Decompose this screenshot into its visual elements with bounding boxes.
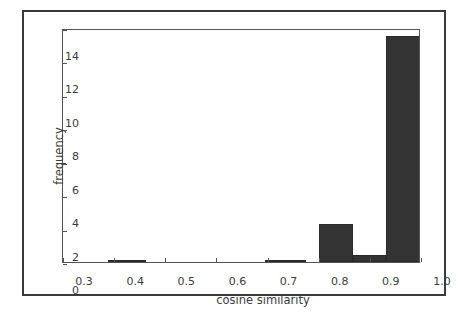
x-tick-label: 0.6 [229,275,247,288]
x-tick-mark [268,258,269,262]
x-tick-label: 0.4 [126,275,144,288]
x-tick-label: 0.5 [178,275,196,288]
x-tick-mark [114,258,115,262]
x-tick-mark [319,258,320,262]
plot-axes-area [62,29,420,263]
x-axis-tick-labels: 0.30.40.50.60.70.80.91.0 [84,275,442,291]
histogram-bars [63,30,419,262]
x-tick-mark [216,258,217,262]
y-tick-label: 6 [72,183,79,196]
y-tick-label: 2 [72,250,79,263]
x-tick-label: 0.9 [382,275,400,288]
histogram-bar [319,224,354,262]
histogram-bar [386,36,419,262]
y-tick-mark [63,30,67,31]
x-tick-label: 0.7 [280,275,298,288]
x-tick-mark [370,258,371,262]
x-axis-title: cosine similarity [84,293,442,307]
y-tick-label: 4 [72,217,79,230]
x-tick-label: 0.8 [331,275,349,288]
figure-frame: 02468101214 0.30.40.50.60.70.80.91.0 cos… [22,10,446,296]
y-tick-label: 12 [65,83,79,96]
y-tick-label: 8 [72,150,79,163]
y-tick-label: 10 [65,116,79,129]
y-axis-title: frequency [52,39,66,273]
x-tick-mark [165,258,166,262]
histogram-bar [265,260,306,262]
x-tick-label: 1.0 [433,275,451,288]
y-tick-label: 14 [65,50,79,63]
x-tick-label: 0.3 [75,275,93,288]
x-tick-mark [421,258,422,262]
